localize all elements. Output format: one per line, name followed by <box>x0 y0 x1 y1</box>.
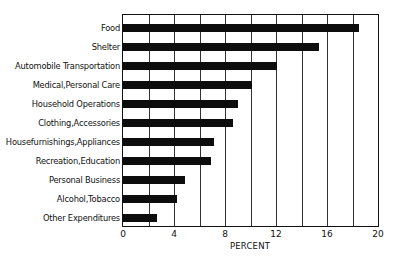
category-label: Housefurnishings,Appliances <box>6 137 120 147</box>
category-label: Other Expenditures <box>43 213 120 223</box>
bar <box>123 176 185 184</box>
bar <box>123 138 214 146</box>
bar <box>123 100 238 108</box>
category-label: Shelter <box>92 42 120 52</box>
bar <box>123 62 277 70</box>
x-tick-label: 4 <box>171 229 177 239</box>
category-label: Personal Business <box>49 175 120 185</box>
x-axis-label: PERCENT <box>230 241 270 251</box>
category-label: Recreation,Education <box>36 156 120 166</box>
bar <box>123 157 211 165</box>
bar <box>123 119 233 127</box>
bar <box>123 43 319 51</box>
x-tick-label: 8 <box>222 229 228 239</box>
x-tick-label: 20 <box>372 229 383 239</box>
gridline <box>353 15 354 226</box>
bar <box>123 195 177 203</box>
category-label: Automobile Transportation <box>15 61 120 71</box>
category-label: Food <box>101 23 120 33</box>
x-tick-label: 16 <box>321 229 332 239</box>
category-label: Alcohol,Tobacco <box>57 194 120 204</box>
x-tick-label: 0 <box>120 229 126 239</box>
bar <box>123 81 252 89</box>
category-label: Clothing,Accessories <box>38 118 120 128</box>
x-tick-label: 12 <box>270 229 281 239</box>
bar <box>123 24 359 32</box>
category-label: Household Operations <box>32 99 120 109</box>
gridline <box>327 15 328 226</box>
category-label: Medical,Personal Care <box>33 80 120 90</box>
bar-chart: FoodShelterAutomobile TransportationMedi… <box>0 0 399 264</box>
bar <box>123 214 157 222</box>
